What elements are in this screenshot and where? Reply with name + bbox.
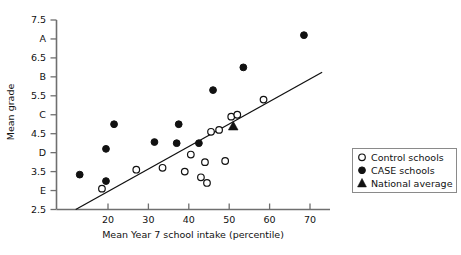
x-axis-title: Mean Year 7 school intake (percentile): [102, 229, 284, 240]
legend-marker-control-schools: [359, 154, 366, 161]
data-point: [173, 140, 180, 147]
data-point: [111, 121, 118, 128]
data-point-national-average: [228, 121, 238, 130]
axes: [57, 20, 331, 210]
data-point: [103, 145, 110, 152]
series-national-average: [228, 121, 238, 130]
x-tick-label: 50: [223, 214, 235, 225]
x-tick-label: 70: [304, 214, 316, 225]
data-point: [301, 32, 308, 39]
x-tick-label: 60: [264, 214, 276, 225]
series-case-schools: [76, 32, 307, 185]
legend: Control schoolsCASE schoolsNational aver…: [353, 149, 457, 193]
series-control-schools: [99, 96, 267, 192]
y-tick-label: 2.5: [31, 204, 46, 215]
data-points-layer: [76, 32, 307, 192]
y-tick-label: B: [39, 71, 46, 82]
data-point: [216, 127, 223, 134]
chart-canvas: 2.5E3.5D4.5C5.5B6.5A7.5 203040506070 Mea…: [0, 0, 461, 255]
x-tick-label: 30: [142, 214, 154, 225]
data-point: [133, 166, 140, 173]
y-tick-label: A: [40, 33, 47, 44]
y-axis-title: Mean grade: [5, 84, 16, 141]
data-point: [181, 168, 188, 175]
y-tick-label: 6.5: [31, 52, 46, 63]
y-tick-label: C: [39, 109, 46, 120]
data-point: [240, 64, 247, 71]
y-tick-label: 7.5: [31, 14, 46, 25]
y-tick-label: D: [39, 147, 46, 158]
y-tick-label: 3.5: [31, 166, 46, 177]
data-point: [198, 174, 205, 181]
data-point: [159, 165, 166, 172]
data-point: [208, 129, 215, 136]
y-tick-label: 5.5: [31, 90, 46, 101]
x-tick-label: 20: [102, 214, 114, 225]
legend-marker-case-schools: [359, 167, 366, 174]
x-tick-label: 40: [183, 214, 195, 225]
y-axis-tick-labels: 2.5E3.5D4.5C5.5B6.5A7.5: [31, 14, 47, 215]
data-point: [188, 151, 195, 158]
data-point: [76, 171, 83, 178]
scatter-plot-figure: 2.5E3.5D4.5C5.5B6.5A7.5 203040506070 Mea…: [0, 0, 461, 255]
y-axis-ticks: [51, 20, 57, 210]
data-point: [103, 178, 110, 185]
data-point: [222, 158, 229, 165]
data-point: [234, 111, 241, 118]
data-point: [260, 96, 267, 103]
x-axis-tick-labels: 203040506070: [102, 214, 316, 225]
data-point: [175, 121, 182, 128]
data-point: [204, 180, 211, 187]
data-point: [99, 185, 106, 192]
legend-label: National average: [371, 178, 453, 189]
data-point: [202, 159, 209, 166]
legend-label: CASE schools: [371, 165, 435, 176]
y-tick-label: E: [40, 185, 46, 196]
data-point: [196, 140, 203, 147]
data-point: [151, 139, 158, 146]
legend-label: Control schools: [371, 152, 444, 163]
y-tick-label: 4.5: [31, 128, 46, 139]
x-axis-ticks: [108, 204, 310, 210]
data-point: [210, 87, 217, 94]
